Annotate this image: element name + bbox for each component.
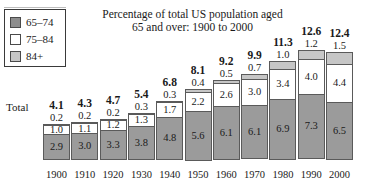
- stacked-bar: 4.07.3: [298, 50, 325, 160]
- x-axis-tick-label: 1920: [98, 169, 129, 180]
- bar-value-label-84-plus: 1.5: [326, 40, 353, 51]
- bar-segment-75-84: 3.0: [241, 80, 268, 106]
- bar-column: 1.23.30.24.71920: [100, 44, 127, 182]
- bar-column: 2.66.10.59.21960: [213, 44, 240, 182]
- bar-value-label-84-plus: 0.3: [128, 101, 155, 112]
- bar-column: 1.13.00.24.31910: [71, 44, 98, 182]
- stacked-bar: 2.66.1: [213, 80, 240, 160]
- stacked-bar: 1.74.8: [156, 101, 183, 160]
- stacked-bar: 3.46.9: [269, 61, 296, 160]
- bar-segment-65-74: 5.6: [185, 112, 212, 161]
- bar-total-label: 4.3: [71, 97, 98, 109]
- bar-segment-65-74: 4.8: [156, 118, 183, 160]
- bar-segment-65-74: 3.0: [71, 134, 98, 160]
- chart-title-line-1: Percentage of total US population aged: [70, 8, 315, 21]
- x-axis-tick-label: 1900: [41, 169, 72, 180]
- x-axis-tick-label: 1980: [267, 169, 298, 180]
- bar-segment-65-74: 6.1: [241, 106, 268, 159]
- stacked-bar: 4.46.5: [326, 52, 353, 160]
- bar-segment-75-84: 1.3: [128, 115, 155, 126]
- legend-swatch-icon-75-84: [10, 34, 21, 45]
- bar-total-label: 4.1: [43, 99, 70, 111]
- bar-segment-75-84: 4.0: [298, 60, 325, 95]
- stacked-bar: 2.25.6: [185, 89, 212, 160]
- bar-segment-75-84: 2.2: [185, 93, 212, 112]
- x-axis-tick-label: 1970: [239, 169, 270, 180]
- bar-segment-75-84: 1.0: [43, 126, 70, 135]
- bar-value-label-84-plus: 0.2: [43, 112, 70, 123]
- legend-swatch-icon-65-74: [10, 17, 21, 28]
- header-divider: [4, 7, 66, 8]
- stacked-bar: 3.06.1: [241, 74, 268, 160]
- bar-segment-65-74: 6.9: [269, 100, 296, 160]
- bar-segment-65-74: 6.1: [213, 107, 240, 160]
- x-axis-tick-label: 1990: [296, 169, 327, 180]
- bar-segment-84-plus: [298, 50, 325, 60]
- bar-value-label-84-plus: 0.2: [71, 110, 98, 121]
- bar-segment-65-74: 3.3: [100, 131, 127, 160]
- bar-segment-75-84: 1.1: [71, 124, 98, 134]
- bar-value-label-84-plus: 0.7: [241, 62, 268, 73]
- bar-total-label: 5.4: [128, 88, 155, 100]
- x-axis-tick-label: 1960: [211, 169, 242, 180]
- bar-segment-75-84: 1.7: [156, 103, 183, 118]
- bar-segment-75-84: 3.4: [269, 70, 296, 100]
- bar-total-label: 6.8: [156, 76, 183, 88]
- bar-total-label: 11.3: [269, 36, 296, 48]
- bar-value-label-84-plus: 0.4: [185, 77, 212, 88]
- bar-segment-75-84: 1.2: [100, 121, 127, 131]
- bar-column: 1.33.80.35.41930: [128, 44, 155, 182]
- bar-column: 3.06.10.79.91970: [241, 44, 268, 182]
- plot-area: 1.02.90.24.119001.13.00.24.319101.23.30.…: [43, 22, 363, 182]
- bar-segment-84-plus: [326, 52, 353, 65]
- bar-total-label: 12.4: [326, 27, 353, 39]
- x-axis-tick-label: 1940: [154, 169, 185, 180]
- bar-segment-84-plus: [269, 61, 296, 70]
- bar-value-label-84-plus: 0.5: [213, 68, 240, 79]
- legend-label-84-plus: 84+: [26, 51, 43, 62]
- bar-value-label-84-plus: 0.2: [100, 107, 127, 118]
- bar-value-label-84-plus: 1.0: [269, 49, 296, 60]
- x-axis-tick-label: 1930: [126, 169, 157, 180]
- bar-value-label-84-plus: 1.2: [298, 38, 325, 49]
- bar-column: 3.46.91.011.31980: [269, 44, 296, 182]
- stacked-bar: 1.23.3: [100, 119, 127, 160]
- bar-column: 1.02.90.24.11900: [43, 44, 70, 182]
- stacked-bar: 1.33.8: [128, 113, 155, 160]
- bar-segment-65-74: 7.3: [298, 95, 325, 159]
- bar-segment-65-74: 2.9: [43, 135, 70, 160]
- bar-total-label: 9.2: [213, 55, 240, 67]
- stacked-bar: 1.13.0: [71, 122, 98, 160]
- bar-total-label: 12.6: [298, 25, 325, 37]
- bar-segment-75-84: 4.4: [326, 65, 353, 103]
- bar-value-label-84-plus: 0.3: [156, 89, 183, 100]
- legend-swatch-icon-84-plus: [10, 51, 21, 62]
- bar-column: 1.74.80.36.81940: [156, 44, 183, 182]
- bar-segment-75-84: 2.6: [213, 84, 240, 107]
- bar-segment-65-74: 3.8: [128, 127, 155, 160]
- stacked-bar: 1.02.9: [43, 124, 70, 160]
- chart-container: 65–74 75–84 84+ Percentage of total US p…: [0, 0, 365, 182]
- bar-column: 2.25.60.48.11950: [185, 44, 212, 182]
- bar-total-label: 8.1: [185, 64, 212, 76]
- bar-column: 4.07.31.212.61990: [298, 44, 325, 182]
- bar-column: 4.46.51.512.42000: [326, 44, 353, 182]
- total-row-label: Total: [6, 101, 28, 113]
- x-axis-tick-label: 1950: [183, 169, 214, 180]
- bar-total-label: 9.9: [241, 49, 268, 61]
- x-axis-tick-label: 2000: [324, 169, 355, 180]
- bar-segment-65-74: 6.5: [326, 103, 353, 160]
- x-axis-tick-label: 1910: [69, 169, 100, 180]
- bar-total-label: 4.7: [100, 94, 127, 106]
